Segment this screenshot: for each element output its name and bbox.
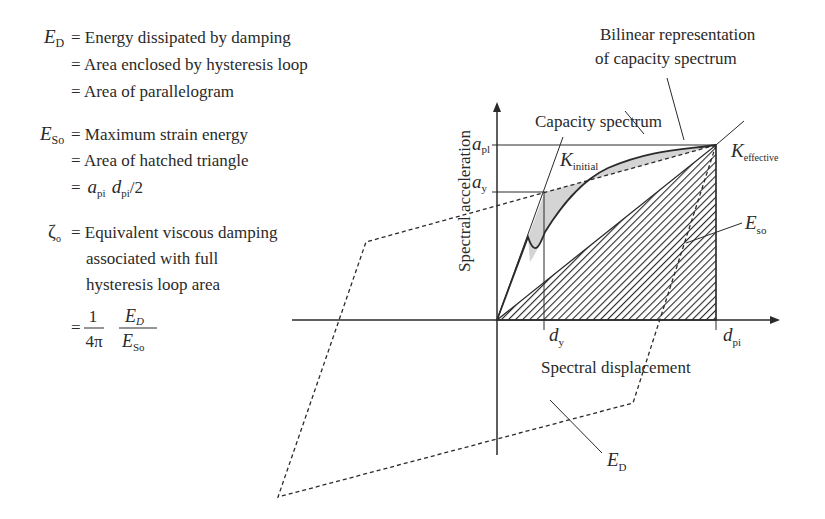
e-d-leader bbox=[550, 400, 602, 453]
bilinear-title: Bilinear representation of capacity spec… bbox=[595, 25, 760, 68]
capacity-spectrum-label: Capacity spectrum bbox=[535, 112, 662, 131]
zeta-formula-den2: ESo bbox=[121, 331, 145, 353]
zeta-symbol: ζo bbox=[48, 221, 61, 244]
zeta-formula-num1: 1 bbox=[89, 307, 98, 326]
zeta-definition: = Equivalent viscous damping associated … bbox=[71, 223, 282, 294]
bilinear-leader bbox=[667, 78, 684, 140]
k-initial-label: Kinitial bbox=[559, 149, 598, 172]
zeta-formula-num2: ED bbox=[124, 306, 144, 327]
d-pi-label: dpi bbox=[723, 324, 741, 348]
a-y-label: ay bbox=[472, 171, 488, 194]
d-y-label: dy bbox=[549, 324, 565, 348]
capacity-spectrum-diagram: Bilinear representation of capacity spec… bbox=[0, 0, 825, 519]
zeta-formula-den1: 4π bbox=[85, 332, 103, 351]
zeta-formula-equals: = bbox=[71, 318, 81, 337]
eso-symbol: ESo bbox=[39, 123, 64, 147]
e-d-label: ED bbox=[606, 449, 627, 473]
eso-formula: = api dpi/2 bbox=[71, 176, 143, 200]
a-pl-label: apl bbox=[472, 133, 490, 155]
ed-symbol: ED bbox=[43, 26, 65, 50]
ed-definition: = Energy dissipated by damping = Area en… bbox=[71, 28, 312, 101]
x-axis-label: Spectral displacement bbox=[541, 358, 691, 377]
eso-definition: = Maximum strain energy = Area of hatche… bbox=[71, 125, 252, 170]
e-so-label: Eso bbox=[744, 212, 767, 236]
k-effective-label: Keffective bbox=[730, 140, 779, 163]
